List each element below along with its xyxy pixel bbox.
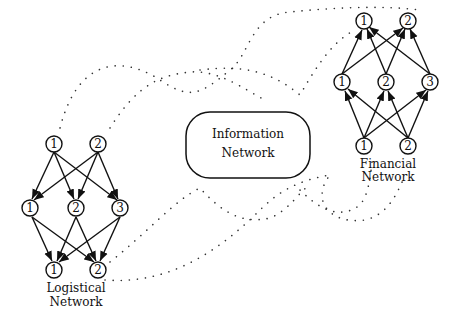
svg-text:1: 1 bbox=[50, 263, 58, 277]
link-info-upper-to-financial bbox=[200, 30, 355, 95]
link-logistical-bottom-to-financial bbox=[105, 175, 405, 280]
logistical-network-label-line2: Network bbox=[50, 295, 104, 309]
svg-text:2: 2 bbox=[72, 201, 80, 215]
financial-network-label-line2: Network bbox=[362, 170, 416, 184]
svg-text:3: 3 bbox=[426, 75, 434, 89]
logistical-node-mid-3: 3 bbox=[112, 200, 128, 216]
svg-text:2: 2 bbox=[404, 14, 412, 28]
logistical-node-bot-1: 1 bbox=[46, 262, 62, 278]
information-network-label-line1: Information bbox=[212, 127, 284, 141]
financial-network-label-line1: Financial bbox=[360, 157, 416, 171]
svg-text:2: 2 bbox=[94, 137, 102, 151]
svg-text:1: 1 bbox=[50, 137, 58, 151]
svg-text:1: 1 bbox=[360, 14, 368, 28]
logistical-node-top-1: 1 bbox=[46, 136, 62, 152]
svg-text:2: 2 bbox=[382, 75, 390, 89]
financial-node-top-2: 2 bbox=[400, 13, 416, 29]
financial-node-bot-1: 1 bbox=[356, 138, 372, 154]
financial-node-mid-3: 3 bbox=[422, 74, 438, 90]
svg-text:1: 1 bbox=[338, 75, 346, 89]
supernetwork-diagram: Information Network 1 2 1 2 3 1 2 Logist… bbox=[0, 0, 465, 326]
financial-node-mid-1: 1 bbox=[334, 74, 350, 90]
financial-node-bot-2: 2 bbox=[400, 138, 416, 154]
logistical-node-mid-2: 2 bbox=[68, 200, 84, 216]
logistical-node-mid-1: 1 bbox=[22, 200, 38, 216]
financial-node-top-1: 1 bbox=[356, 13, 372, 29]
svg-text:3: 3 bbox=[116, 201, 124, 215]
logistical-network-label-line1: Logistical bbox=[46, 281, 105, 295]
svg-text:2: 2 bbox=[404, 139, 412, 153]
information-network-label-line2: Network bbox=[222, 146, 276, 160]
svg-text:1: 1 bbox=[360, 139, 368, 153]
link-logistical-bottom-to-info bbox=[110, 185, 310, 262]
svg-text:2: 2 bbox=[94, 263, 102, 277]
information-network: Information Network bbox=[186, 112, 310, 178]
financial-node-mid-2: 2 bbox=[378, 74, 394, 90]
svg-text:1: 1 bbox=[26, 201, 34, 215]
logistical-node-top-2: 2 bbox=[90, 136, 106, 152]
logistical-node-bot-2: 2 bbox=[90, 262, 106, 278]
financial-nodes: 1 2 1 2 3 1 2 bbox=[334, 13, 438, 154]
logistical-nodes: 1 2 1 2 3 1 2 bbox=[22, 136, 128, 278]
